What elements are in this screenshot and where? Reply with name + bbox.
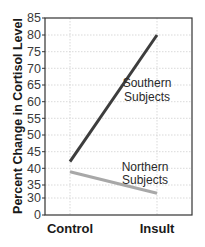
tick-85: 85: [27, 11, 41, 25]
northern-label-line2: Subjects: [122, 173, 168, 187]
tick-80: 80: [27, 28, 41, 42]
tick-35: 35: [27, 178, 41, 192]
y-tick-labels: 85 80 75 70 65 60 55 50 45 40 35 30 0: [27, 11, 41, 222]
plot-frame: [45, 18, 192, 215]
southern-label-line2: Subjects: [124, 90, 170, 104]
tick-70: 70: [27, 62, 41, 76]
northern-label-line1: Northern: [122, 160, 169, 174]
tick-75: 75: [27, 45, 41, 59]
tick-30: 30: [27, 191, 41, 205]
x-label-insult: Insult: [140, 221, 175, 236]
tick-55: 55: [27, 112, 41, 126]
tick-60: 60: [27, 95, 41, 109]
tick-40: 40: [27, 162, 41, 176]
y-axis-label: Percent Change in Cortisol Level: [11, 18, 25, 214]
x-label-control: Control: [47, 221, 93, 236]
gridlines: [45, 18, 192, 215]
tick-0: 0: [34, 208, 41, 222]
tick-50: 50: [27, 128, 41, 142]
tick-45: 45: [27, 145, 41, 159]
cortisol-line-chart: 85 80 75 70 65 60 55 50 45 40 35 30 0 Pe…: [0, 0, 205, 247]
tick-65: 65: [27, 78, 41, 92]
southern-label-line1: Southern: [123, 76, 172, 90]
